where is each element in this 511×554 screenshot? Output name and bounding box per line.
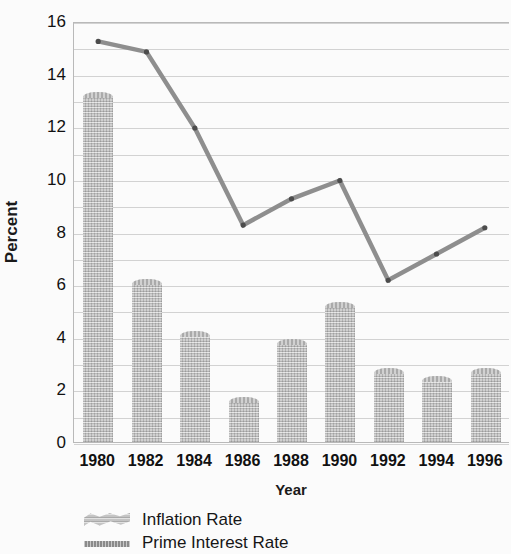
legend-item-inflation-rate: Inflation Rate: [82, 508, 502, 531]
y-axis-tick-14: 14: [0, 65, 66, 85]
line-marker-1996: [482, 225, 487, 230]
y-axis-tick-4: 4: [0, 328, 66, 348]
line-marker-1992: [386, 278, 391, 283]
x-axis-tick-1984: 1984: [176, 452, 212, 470]
x-axis-tick-1988: 1988: [273, 452, 309, 470]
x-axis-tick-1982: 1982: [128, 452, 164, 470]
line-marker-1990: [337, 178, 342, 183]
x-axis-tick-1992: 1992: [370, 452, 406, 470]
x-axis-tick-1994: 1994: [419, 452, 455, 470]
line-marker-1984: [192, 125, 197, 130]
x-axis-title: Year: [73, 481, 509, 498]
y-axis-tick-2: 2: [0, 380, 66, 400]
y-axis-tick-6: 6: [0, 275, 66, 295]
gridline: [74, 444, 509, 445]
x-axis-tick-labels: 198019821984198619881990199219941996: [73, 452, 509, 476]
x-axis-tick-1990: 1990: [322, 452, 358, 470]
line-marker-1988: [289, 196, 294, 201]
line-swatch-icon: [82, 533, 132, 553]
y-axis-tick-12: 12: [0, 117, 66, 137]
legend-label-prime-interest-rate: Prime Interest Rate: [142, 533, 288, 553]
line-series-prime-interest-rate: [74, 23, 509, 443]
x-axis-tick-1996: 1996: [467, 452, 503, 470]
legend-item-prime-interest-rate: Prime Interest Rate: [82, 531, 502, 554]
line-marker-1980: [96, 39, 101, 44]
prime-interest-rate-line: [74, 23, 509, 443]
line-marker-1982: [144, 49, 149, 54]
textured-bar-swatch-icon: [82, 510, 132, 530]
x-axis-line: [74, 442, 509, 443]
line-marker-1986: [241, 223, 246, 228]
plot-area: [73, 22, 509, 443]
y-axis-tick-16: 16: [0, 12, 66, 32]
line-marker-1994: [434, 251, 439, 256]
y-axis-tick-0: 0: [0, 433, 66, 453]
x-axis-tick-1986: 1986: [225, 452, 261, 470]
chart-container: Percent 0246810121416 198019821984198619…: [0, 0, 511, 554]
chart-legend: Inflation Rate Prime Interest Rate: [82, 508, 502, 554]
y-axis-tick-8: 8: [0, 223, 66, 243]
x-axis-tick-1980: 1980: [79, 452, 115, 470]
legend-label-inflation-rate: Inflation Rate: [142, 510, 242, 530]
y-axis-tick-labels: 0246810121416: [0, 0, 66, 554]
y-axis-tick-10: 10: [0, 170, 66, 190]
